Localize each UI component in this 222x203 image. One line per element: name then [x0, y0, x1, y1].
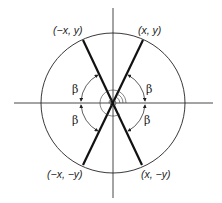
arc-lower-left	[81, 105, 98, 131]
point-label-upper-left: (−x, y)	[53, 24, 82, 36]
beta-label-lower-right: β	[144, 114, 150, 127]
beta-label-upper-right: β	[146, 83, 152, 96]
arc-upper-right	[128, 75, 145, 101]
beta-label-upper-left: β	[72, 83, 78, 96]
arc-lower-right	[128, 105, 145, 131]
arc-upper-left	[81, 75, 98, 101]
point-label-lower-right: (x, −y)	[141, 168, 170, 180]
point-label-lower-left: (−x, −y)	[47, 168, 83, 180]
point-label-upper-right: (x, y)	[138, 24, 161, 36]
beta-label-lower-left: β	[72, 114, 78, 127]
unit-circle-diagram: β β β β (−x, y) (x, y) (−x, −y) (x, −y)	[0, 0, 222, 203]
